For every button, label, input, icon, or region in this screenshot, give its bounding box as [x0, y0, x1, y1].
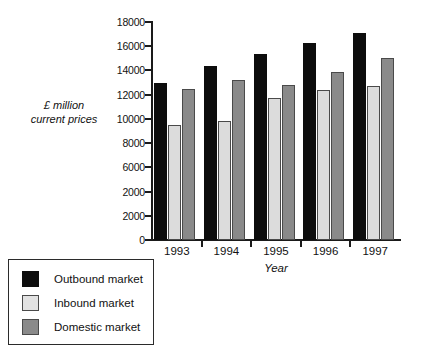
- x-tick-label-1995: 1995: [251, 245, 301, 258]
- legend-label-domestic: Domestic market: [54, 321, 140, 334]
- y-tick-label-wrap: 16000: [95, 41, 145, 51]
- x-tick-label-1993: 1993: [152, 245, 202, 258]
- y-tick-label-wrap: 8000: [95, 138, 145, 148]
- legend-label-inbound: Inbound market: [54, 297, 134, 310]
- legend-item-outbound: Outbound market: [9, 267, 153, 291]
- bar-outbound-1994: [204, 66, 217, 240]
- bar-outbound-1993: [154, 83, 167, 240]
- y-tick-mark: [145, 94, 152, 96]
- x-tick-label-1996: 1996: [301, 245, 351, 258]
- plot-area: [152, 22, 400, 240]
- x-tick-label-1994: 1994: [202, 245, 252, 258]
- y-tick-mark: [145, 118, 152, 120]
- y-tick-mark: [145, 21, 152, 23]
- bar-outbound-1995: [254, 54, 267, 241]
- y-axis-title-line2: current prices: [31, 113, 98, 125]
- bar-chart: £ million current prices 020002000600080…: [0, 0, 431, 354]
- y-tick-label: 16000: [101, 41, 145, 51]
- bar-domestic-1997: [381, 58, 394, 240]
- y-tick-label-wrap: 2000: [95, 187, 145, 197]
- y-tick-label: 2000: [101, 187, 145, 197]
- y-tick-label: 10000: [101, 114, 145, 124]
- y-axis-title-line1: £ million: [44, 99, 84, 111]
- bar-domestic-1993: [182, 89, 195, 240]
- y-tick-label-wrap: 2000: [95, 211, 145, 221]
- y-tick-mark: [145, 215, 152, 217]
- legend-label-outbound: Outbound market: [54, 273, 143, 286]
- bar-inbound-1997: [367, 86, 380, 240]
- y-tick-label: 6000: [101, 162, 145, 172]
- bar-domestic-1995: [282, 85, 295, 240]
- bar-inbound-1996: [317, 90, 330, 240]
- legend-item-domestic: Domestic market: [9, 315, 153, 339]
- chart-legend: Outbound market Inbound market Domestic …: [8, 259, 154, 345]
- x-axis-title: Year: [152, 262, 400, 274]
- y-tick-label: 0: [101, 235, 145, 245]
- legend-swatch-outbound-icon: [22, 271, 39, 287]
- y-tick-label: 2000: [101, 211, 145, 221]
- y-tick-label-wrap: 6000: [95, 162, 145, 172]
- y-tick-label-wrap: 18000: [95, 17, 145, 27]
- bar-outbound-1996: [303, 43, 316, 240]
- legend-item-inbound: Inbound market: [9, 291, 153, 315]
- y-tick-label: 18000: [101, 17, 145, 27]
- bar-domestic-1996: [331, 72, 344, 240]
- y-tick-label: 12000: [101, 90, 145, 100]
- y-tick-mark: [145, 191, 152, 193]
- y-tick-label-wrap: 0: [95, 235, 145, 245]
- y-tick-mark: [145, 166, 152, 168]
- y-tick-label-wrap: 14000: [95, 65, 145, 75]
- y-tick-label-wrap: 10000: [95, 114, 145, 124]
- bar-domestic-1994: [232, 80, 245, 240]
- y-tick-label: 14000: [101, 65, 145, 75]
- y-tick-mark: [145, 69, 152, 71]
- bar-inbound-1994: [218, 121, 231, 240]
- bar-inbound-1995: [268, 98, 281, 240]
- y-tick-mark: [145, 142, 152, 144]
- y-tick-label: 8000: [101, 138, 145, 148]
- legend-swatch-inbound-icon: [22, 295, 39, 311]
- y-tick-label-wrap: 12000: [95, 90, 145, 100]
- bar-outbound-1997: [353, 33, 366, 240]
- y-tick-mark: [145, 239, 152, 241]
- bar-inbound-1993: [168, 125, 181, 240]
- legend-swatch-domestic-icon: [22, 319, 39, 335]
- y-tick-mark: [145, 45, 152, 47]
- x-tick-label-1997: 1997: [350, 245, 400, 258]
